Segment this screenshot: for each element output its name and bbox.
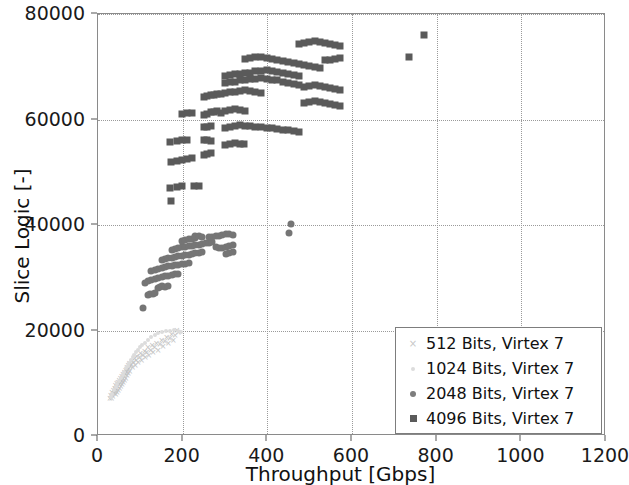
data-point <box>188 109 195 116</box>
gridline-horizontal <box>98 225 604 226</box>
data-point <box>316 65 323 72</box>
data-point <box>185 259 192 266</box>
legend-item-label: 512 Bits, Virtex 7 <box>426 334 564 353</box>
data-point <box>337 86 344 93</box>
data-point <box>109 395 113 399</box>
y-tick-mark <box>91 329 97 330</box>
x-marker-icon-glyph: × <box>409 339 417 349</box>
data-point <box>229 248 236 255</box>
data-point <box>207 137 214 144</box>
legend-item-label: 1024 Bits, Virtex 7 <box>426 359 574 378</box>
data-point <box>420 32 427 39</box>
data-point <box>406 53 413 60</box>
data-point <box>337 55 344 62</box>
x-tick-mark <box>181 435 182 441</box>
gridline-horizontal <box>98 14 604 15</box>
data-point <box>242 108 249 115</box>
data-point <box>207 123 214 130</box>
data-point <box>179 330 183 334</box>
circle-marker-icon-glyph <box>410 391 416 397</box>
y-tick-label: 80000 <box>0 2 85 24</box>
data-point <box>337 43 344 50</box>
data-point <box>178 182 185 189</box>
x-axis-title: Throughput [Gbps] <box>0 462 626 485</box>
square-marker-icon-glyph <box>410 415 417 422</box>
x-tick-mark <box>520 435 521 441</box>
data-point <box>199 233 206 240</box>
gridline-horizontal <box>98 120 604 121</box>
x-tick-mark <box>97 435 98 441</box>
y-axis-title: Slice Logic [-] <box>10 126 34 346</box>
x-marker-icon: × <box>400 339 426 349</box>
gridline-vertical <box>183 14 184 434</box>
legend-item[interactable]: 1024 Bits, Virtex 7 <box>400 356 597 381</box>
data-point <box>285 230 292 237</box>
circle-marker-icon <box>400 391 426 397</box>
data-point <box>337 102 344 109</box>
data-point <box>199 249 206 256</box>
x-tick-mark <box>605 435 606 441</box>
y-tick-label: 0 <box>0 424 85 446</box>
legend-item[interactable]: ×512 Bits, Virtex 7 <box>400 331 597 356</box>
x-tick-mark <box>266 435 267 441</box>
dot-marker-icon <box>400 367 426 371</box>
y-tick-mark <box>91 224 97 225</box>
data-point <box>295 72 302 79</box>
square-marker-icon <box>400 415 426 422</box>
x-axis-title-text: Throughput [Gbps] <box>246 462 435 485</box>
legend-item[interactable]: 4096 Bits, Virtex 7 <box>400 406 597 431</box>
data-point <box>207 149 214 156</box>
chart-legend: ×512 Bits, Virtex 71024 Bits, Virtex 720… <box>395 327 602 434</box>
y-tick-mark <box>91 13 97 14</box>
x-tick-mark <box>351 435 352 441</box>
data-point <box>195 183 202 190</box>
data-point <box>139 304 146 311</box>
data-point <box>229 241 236 248</box>
legend-item[interactable]: 2048 Bits, Virtex 7 <box>400 381 597 406</box>
data-point <box>167 198 174 205</box>
data-point <box>287 221 294 228</box>
y-tick-mark <box>91 118 97 119</box>
data-point <box>188 155 195 162</box>
data-point <box>175 270 182 277</box>
data-point <box>258 90 265 97</box>
data-point <box>295 129 302 136</box>
data-point <box>183 136 190 143</box>
data-point <box>240 141 247 148</box>
legend-item-label: 4096 Bits, Virtex 7 <box>426 409 574 428</box>
dot-marker-icon-glyph <box>411 367 415 371</box>
data-point <box>229 232 236 239</box>
gridline-vertical <box>352 14 353 434</box>
x-tick-mark <box>435 435 436 441</box>
data-point <box>110 392 114 396</box>
data-point <box>165 283 172 290</box>
legend-item-label: 2048 Bits, Virtex 7 <box>426 384 574 403</box>
